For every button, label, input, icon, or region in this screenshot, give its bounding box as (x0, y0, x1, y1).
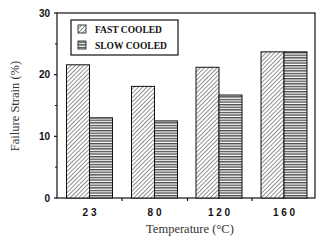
bar-slow-cooled-3 (284, 52, 307, 198)
bar-fast-cooled-0 (67, 65, 90, 198)
bar-fast-cooled-1 (132, 86, 155, 198)
legend-swatch-slow-cooled (78, 41, 86, 49)
x-axis-title: Temperature (°C) (146, 222, 234, 236)
y-tick-label: 20 (39, 69, 51, 80)
bar-slow-cooled-1 (155, 121, 178, 198)
legend-label-fast-cooled: FAST COOLED (95, 25, 162, 35)
y-tick-label: 30 (39, 8, 51, 19)
x-tick-label: 1 2 0 (208, 207, 231, 218)
x-axis: 2 38 01 2 01 6 0 (83, 198, 296, 218)
y-tick-label: 10 (39, 131, 51, 142)
bar-chart: 0102030 2 38 01 2 01 6 0 FAST COOLED SLO… (0, 0, 333, 248)
bar-fast-cooled-2 (196, 67, 219, 198)
bar-slow-cooled-2 (219, 95, 242, 198)
bar-slow-cooled-0 (90, 118, 113, 198)
x-tick-label: 2 3 (83, 207, 97, 218)
y-tick-label: 0 (44, 193, 50, 204)
y-axis-title: Failure Strain (%) (8, 61, 22, 151)
bar-fast-cooled-3 (261, 52, 284, 198)
legend: FAST COOLED SLOW COOLED (71, 20, 178, 55)
legend-swatch-fast-cooled (78, 25, 86, 33)
bars (67, 52, 308, 198)
legend-label-slow-cooled: SLOW COOLED (95, 41, 167, 51)
x-tick-label: 1 6 0 (273, 207, 296, 218)
x-tick-label: 8 0 (148, 207, 162, 218)
y-axis: 0102030 (39, 8, 57, 204)
